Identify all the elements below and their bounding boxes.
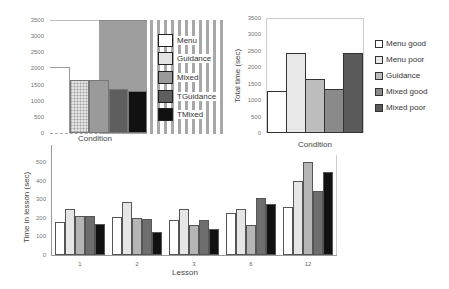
bar-lesson-12-s3 bbox=[303, 162, 313, 255]
chart3-baseline bbox=[51, 255, 337, 256]
bar-lesson-1-s3 bbox=[75, 216, 85, 255]
x-tick-label: 3 bbox=[174, 261, 214, 267]
legend-item: Menu poor bbox=[375, 55, 424, 64]
y-tick-label: 2000 bbox=[231, 64, 261, 70]
bar-lesson-12-s2 bbox=[293, 181, 303, 255]
y-tick-label: 2000 bbox=[14, 65, 44, 71]
x-tick-label: 2 bbox=[117, 261, 157, 267]
legend-swatch bbox=[375, 40, 383, 48]
bar-lesson-6-s5 bbox=[266, 204, 276, 255]
bar-menu-good bbox=[267, 91, 287, 133]
bar-lesson-3-s5 bbox=[209, 229, 219, 255]
bar-lesson-6-s2 bbox=[236, 209, 246, 255]
bar-menu-poor bbox=[286, 53, 306, 133]
y-tick-label: 3500 bbox=[231, 15, 261, 21]
y-tick-label: 500 bbox=[231, 114, 261, 120]
chart1-xlabel: Condition bbox=[60, 134, 130, 143]
legend-swatch bbox=[158, 108, 173, 121]
bar-lesson-6-s4 bbox=[256, 198, 266, 255]
chart1-axis-top-line bbox=[50, 20, 99, 21]
bar-lesson-1-s4 bbox=[85, 216, 95, 255]
bar-menu bbox=[50, 67, 70, 133]
legend-swatch bbox=[375, 72, 383, 80]
legend-swatch bbox=[158, 90, 173, 103]
bar-tmixed bbox=[128, 91, 147, 133]
legend-label: TMixed bbox=[176, 110, 204, 119]
y-tick-label: 500 bbox=[14, 114, 44, 120]
legend-label: Mixed poor bbox=[386, 103, 426, 112]
legend-label: Menu poor bbox=[386, 55, 424, 64]
y-tick-label: 3500 bbox=[14, 17, 44, 23]
legend-swatch bbox=[158, 52, 173, 65]
y-tick-label: 0 bbox=[231, 130, 261, 136]
legend-item: TGuidance bbox=[158, 90, 217, 103]
y-tick-label: 0 bbox=[16, 252, 46, 258]
legend-label: Menu bbox=[176, 36, 198, 45]
bar-lesson-1-s1 bbox=[55, 222, 65, 255]
legend-swatch bbox=[375, 56, 383, 64]
legend-item: Guidance bbox=[375, 71, 420, 80]
y-tick-label: 200 bbox=[16, 215, 46, 221]
legend-label: Guidance bbox=[176, 54, 212, 63]
bar-lesson-6-s1 bbox=[226, 213, 236, 255]
y-tick-label: 1000 bbox=[231, 97, 261, 103]
chart3-right-edge bbox=[336, 155, 337, 256]
y-tick-label: 300 bbox=[16, 196, 46, 202]
bar-mixed-poor bbox=[343, 53, 363, 133]
bar-lesson-3-s3 bbox=[189, 225, 199, 255]
legend-label: Mixed good bbox=[386, 87, 427, 96]
y-tick-label: 1000 bbox=[14, 98, 44, 104]
bar-lesson-12-s1 bbox=[283, 207, 293, 255]
legend-swatch bbox=[158, 34, 173, 47]
legend-swatch bbox=[375, 104, 383, 112]
bar-tguidance bbox=[109, 89, 128, 133]
chart3: Time in lesson (sec) 0100200300400500 12… bbox=[0, 145, 449, 289]
chart3-xlabel: Lesson bbox=[150, 268, 220, 277]
y-tick-label: 1500 bbox=[14, 82, 44, 88]
legend-item: TMixed bbox=[158, 108, 204, 121]
legend-item: Guidance bbox=[158, 52, 212, 65]
bar-lesson-2-s4 bbox=[142, 219, 152, 255]
y-tick-label: 0 bbox=[14, 130, 44, 136]
bar-guidance bbox=[305, 79, 325, 133]
x-tick-label: 6 bbox=[231, 261, 271, 267]
chart1: 0500100015002000250030003500 Condition M… bbox=[0, 0, 230, 150]
legend-item: Menu good bbox=[375, 39, 426, 48]
bar-lesson-3-s4 bbox=[199, 220, 209, 255]
x-tick-label: 12 bbox=[288, 261, 328, 267]
legend-label: Menu good bbox=[386, 39, 426, 48]
y-tick-label: 500 bbox=[16, 159, 46, 165]
bar-lesson-6-s3 bbox=[246, 225, 256, 255]
y-tick-label: 400 bbox=[16, 178, 46, 184]
bar-mixed-good bbox=[324, 89, 344, 133]
legend-item: Mixed bbox=[158, 71, 199, 84]
y-tick-label: 2500 bbox=[14, 49, 44, 55]
bar-mixed bbox=[89, 80, 109, 133]
legend-label: TGuidance bbox=[176, 92, 217, 101]
legend-item: Menu bbox=[158, 34, 198, 47]
bar-lesson-1-s2 bbox=[65, 209, 75, 255]
bar-lesson-2-s5 bbox=[152, 232, 162, 255]
y-tick-label: 3000 bbox=[14, 33, 44, 39]
bar-lesson-2-s2 bbox=[122, 202, 132, 255]
x-tick-label: 1 bbox=[60, 261, 100, 267]
chart3-yaxis bbox=[51, 145, 52, 256]
y-tick-label: 3000 bbox=[231, 31, 261, 37]
legend-label: Guidance bbox=[386, 71, 420, 80]
legend-item: Mixed poor bbox=[375, 103, 426, 112]
bar-lesson-12-s4 bbox=[313, 191, 323, 255]
y-tick-label: 2500 bbox=[231, 48, 261, 54]
bar-lesson-12-s5 bbox=[323, 172, 333, 255]
bar-lesson-2-s3 bbox=[132, 218, 142, 255]
y-tick-label: 100 bbox=[16, 233, 46, 239]
legend-label: Mixed bbox=[176, 73, 199, 82]
chart2: Total time (sec) 05001000150020002500300… bbox=[230, 0, 449, 150]
chart2-ylabel: Total time (sec) bbox=[233, 49, 242, 103]
legend-item: Mixed good bbox=[375, 87, 427, 96]
bar-lesson-3-s2 bbox=[179, 209, 189, 255]
bar-lesson-3-s1 bbox=[169, 220, 179, 255]
bar-lesson-1-s5 bbox=[95, 224, 105, 255]
legend-swatch bbox=[375, 88, 383, 96]
legend-swatch bbox=[158, 71, 173, 84]
y-tick-label: 1500 bbox=[231, 81, 261, 87]
